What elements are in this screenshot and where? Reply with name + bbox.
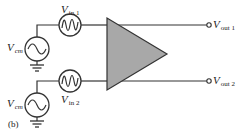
vout2-symbol: V (213, 74, 220, 86)
vin2-label: Vin 2 (61, 94, 79, 105)
vout2-label: Vout 2 (213, 75, 235, 86)
vin1-symbol: V (61, 3, 68, 15)
vin2-symbol: V (61, 93, 68, 105)
vout1-label: Vout 1 (213, 19, 235, 30)
vcm2-label: Vcm (7, 98, 23, 109)
vout2-terminal-icon[interactable] (207, 79, 211, 83)
vin2-source-icon (59, 70, 81, 92)
vout2-subscript: out 2 (221, 80, 235, 88)
vin1-label: Vin 1 (61, 4, 79, 15)
vcm1-symbol: V (7, 41, 14, 53)
ground-icon (30, 65, 44, 71)
amplifier-triangle-icon (107, 18, 167, 90)
vin2-subscript: in 2 (69, 99, 80, 107)
vcm2-subscript: cm (15, 103, 23, 111)
ground-icon (30, 121, 44, 127)
vout1-terminal-icon[interactable] (207, 23, 211, 27)
vout1-symbol: V (213, 18, 220, 30)
vin1-subscript: in 1 (69, 9, 80, 17)
vcm1-source-icon (25, 37, 49, 61)
vcm1-subscript: cm (15, 47, 23, 55)
vout1-subscript: out 1 (221, 24, 235, 32)
figure-caption: (b) (8, 120, 19, 129)
vcm2-source-icon (25, 93, 49, 117)
vin1-source-icon (59, 14, 81, 36)
vcm1-label: Vcm (7, 42, 23, 53)
vcm2-symbol: V (7, 97, 14, 109)
circuit-diagram (0, 0, 242, 135)
